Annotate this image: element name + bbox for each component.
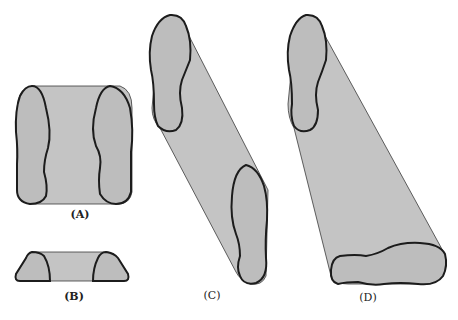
panel-b-label: (B) <box>64 290 84 303</box>
panel-d-label: (D) <box>359 291 376 304</box>
panel-a-left-foot-outline <box>16 86 50 204</box>
panel-c: (C) <box>150 15 268 302</box>
panel-a-right-foot-outline <box>93 86 132 204</box>
panel-b-left-edge-outline <box>16 252 51 281</box>
panel-a-label: (A) <box>71 208 90 221</box>
panel-c-label: (C) <box>204 289 221 302</box>
panel-b-right-edge-outline <box>93 252 129 281</box>
figure-canvas: (A) (B) (C) (D) <box>0 0 458 320</box>
panel-a: (A) <box>16 86 132 221</box>
panel-b: (B) <box>16 252 129 303</box>
panel-d: (D) <box>288 15 446 304</box>
